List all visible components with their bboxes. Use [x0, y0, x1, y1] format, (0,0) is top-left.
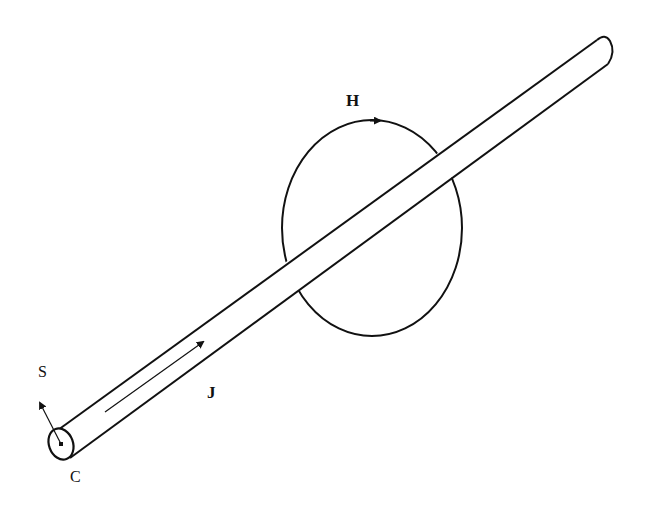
- current-density-arrow-icon: [105, 342, 203, 412]
- conductor-upper-edge: [58, 40, 597, 430]
- label-c: C: [70, 469, 81, 485]
- label-j: J: [207, 384, 216, 401]
- label-h: H: [346, 92, 359, 109]
- conductor-lower-edge: [70, 64, 608, 458]
- conductor-cylinder: [44, 36, 613, 463]
- center-dot-icon: [59, 442, 63, 446]
- diagram-canvas: [0, 0, 645, 511]
- label-s: S: [38, 364, 47, 380]
